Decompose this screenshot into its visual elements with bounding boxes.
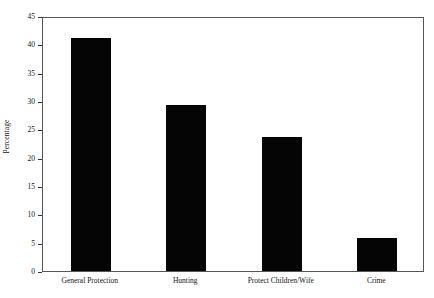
- bar-slot: [330, 18, 426, 271]
- y-axis-tick-label: 35: [14, 70, 38, 78]
- y-axis-tick-label: 10: [14, 211, 38, 219]
- y-axis-tick-label: 30: [14, 98, 38, 106]
- y-axis-tick-label: 15: [14, 183, 38, 191]
- x-axis-category-label: Crime: [329, 276, 425, 286]
- y-axis-tick-label: 0: [14, 268, 38, 276]
- bar-chart: Percentage 051015202530354045 General Pr…: [0, 0, 434, 298]
- bar-slot: [139, 18, 235, 271]
- y-axis-tick-label: 25: [14, 126, 38, 134]
- y-axis-tick-label: 5: [14, 240, 38, 248]
- x-axis-labels: General ProtectionHuntingProtect Childre…: [42, 276, 424, 292]
- y-axis-title-text: Percentage: [3, 119, 12, 153]
- bar-slot: [43, 18, 139, 271]
- x-axis-category-label: Hunting: [138, 276, 234, 286]
- y-axis-tick-label: 45: [14, 13, 38, 21]
- y-axis-tick-mark: [38, 272, 42, 273]
- bar[interactable]: [166, 105, 206, 271]
- bar[interactable]: [357, 238, 397, 271]
- plot-area: [42, 17, 424, 272]
- y-axis-title: Percentage: [0, 0, 14, 272]
- y-axis-tick-labels: 051015202530354045: [14, 0, 38, 298]
- bar-slot: [234, 18, 330, 271]
- bars-layer: [43, 18, 423, 271]
- x-axis-category-label: Protect Children/Wife: [233, 276, 329, 286]
- y-axis-tick-label: 20: [14, 155, 38, 163]
- x-axis-category-label: General Protection: [42, 276, 138, 286]
- bar[interactable]: [71, 38, 111, 271]
- bar[interactable]: [262, 137, 302, 271]
- y-axis-tick-label: 40: [14, 41, 38, 49]
